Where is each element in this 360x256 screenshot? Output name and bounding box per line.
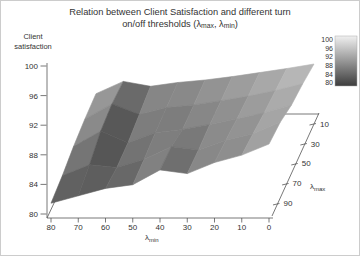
x-axis-tick-label: 20 (205, 223, 225, 232)
title-line2-text-pre: on/off thresholds (λ (122, 19, 201, 29)
z-axis-title-line1: Client (7, 32, 59, 42)
colorbar-tick-label: 84 (313, 71, 333, 79)
z-axis-tick-label: 80 (15, 210, 38, 219)
surface-mesh (51, 64, 314, 203)
colorbar-gradient (335, 36, 357, 86)
depth-axis-tick (300, 144, 307, 146)
depth-axis-tick (291, 163, 298, 165)
z-axis-tick-label: 88 (15, 151, 38, 160)
depth-axis-tick (273, 203, 280, 205)
colorbar-tick-label: 88 (313, 62, 333, 70)
title-line2-text-post: ) (235, 19, 238, 29)
depth-axis-tick (282, 183, 289, 185)
x-axis-tick-label: 70 (68, 223, 88, 232)
figure: Relation between Client Satisfaction and… (0, 0, 360, 256)
colorbar-tick-label: 92 (313, 53, 333, 61)
depth-axis-tick-label: 70 (293, 179, 302, 188)
colorbar-tick-label: 80 (313, 79, 333, 87)
depth-axis-tick-label: 10 (320, 120, 329, 129)
depth-axis-tick-label: 30 (311, 140, 320, 149)
z-axis-title: Client satisfaction (7, 32, 59, 52)
x-axis-title-sub: min (149, 237, 159, 243)
x-axis-tick-label: 10 (232, 223, 252, 232)
colorbar-tick-label: 96 (313, 45, 333, 53)
z-axis-title-line2: satisfaction (7, 42, 59, 52)
z-axis-tick-label: 96 (15, 92, 38, 101)
x-axis-tick-label: 60 (96, 223, 116, 232)
depth-axis-title-sub: max (314, 186, 325, 192)
z-axis-tick-label: 100 (15, 62, 38, 71)
depth-axis-tick-label: 50 (302, 159, 311, 168)
x-axis-tick-label: 0 (259, 223, 279, 232)
chart-title: Relation between Client Satisfaction and… (1, 7, 359, 30)
title-line2-sub-max: max (201, 22, 214, 29)
x-axis-title: λmin (145, 233, 159, 242)
x-axis-tick-label: 30 (177, 223, 197, 232)
title-line2-text-mid: , λ (214, 19, 224, 29)
chart-title-line1: Relation between Client Satisfaction and… (1, 7, 359, 19)
depth-axis-tick-label: 90 (283, 199, 292, 208)
x-axis-tick-label: 80 (41, 223, 61, 232)
chart-title-line2: on/off thresholds (λmax, λmin) (1, 19, 359, 31)
x-axis-tick-label: 50 (123, 223, 143, 232)
depth-axis-title: λmax (310, 182, 325, 191)
z-axis-tick-label: 92 (15, 121, 38, 130)
colorbar (335, 36, 357, 86)
z-axis-tick-label: 84 (15, 180, 38, 189)
colorbar-tick-label: 100 (313, 36, 333, 44)
title-line2-sub-min: min (224, 22, 235, 29)
depth-axis-line (272, 113, 319, 216)
depth-axis-tick (309, 124, 316, 126)
x-axis-tick-label: 40 (150, 223, 170, 232)
